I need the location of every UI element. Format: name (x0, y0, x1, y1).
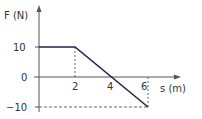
y-axis-label: F (N) (4, 10, 28, 21)
x-tick-label-2: 2 (72, 81, 78, 92)
y-tick-label-10: 10 (13, 42, 26, 53)
x-axis-label: s (m) (160, 83, 186, 94)
y-axis-arrow-icon (37, 5, 42, 12)
y-tick-label-0: 0 (21, 72, 27, 83)
y-tick-label-neg10: −10 (6, 102, 27, 113)
x-axis-arrow-icon (174, 75, 181, 80)
force-displacement-chart: F (N) s (m) 10 0 −10 2 4 6 (0, 0, 202, 119)
x-tick-label-4: 4 (107, 81, 113, 92)
x-tick-label-6: 6 (141, 81, 147, 92)
chart-canvas: F (N) s (m) 10 0 −10 2 4 6 (0, 0, 202, 119)
